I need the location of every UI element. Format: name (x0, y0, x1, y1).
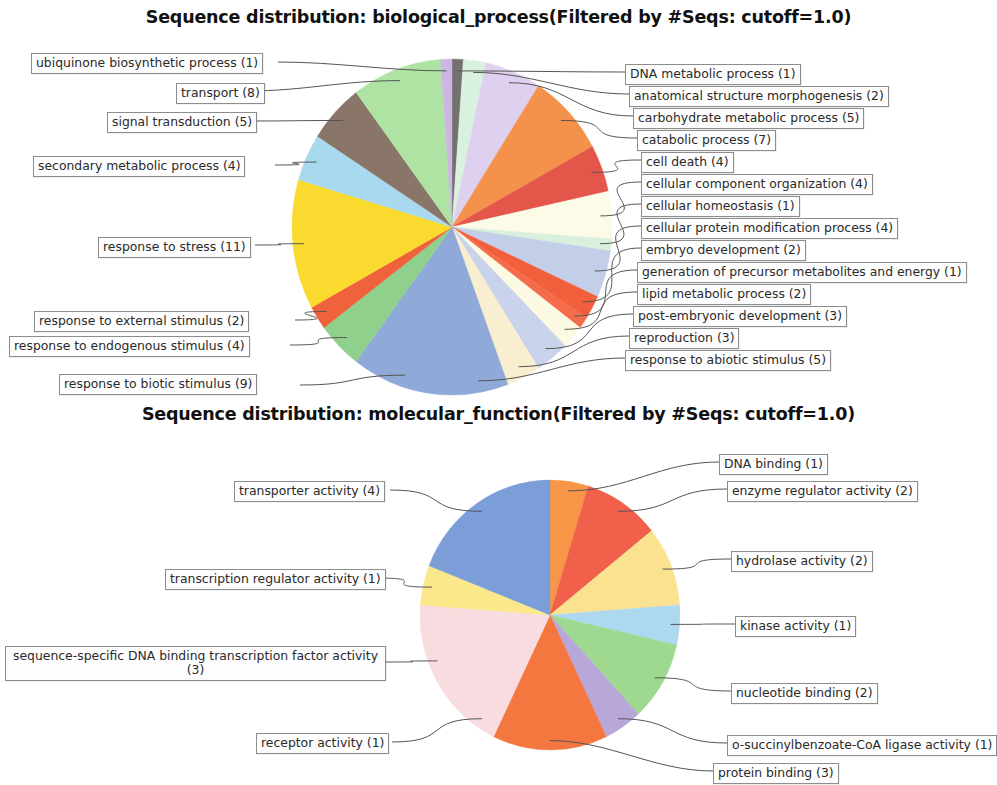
leader-line (655, 678, 731, 691)
bp-label-dna-metabolic-process[interactable]: DNA metabolic process (1) (625, 64, 801, 85)
mf-label-transcription-regulator-activity[interactable]: transcription regulator activity (1) (165, 569, 386, 590)
mf-label-dna-binding[interactable]: DNA binding (1) (719, 454, 828, 475)
leader-line (392, 719, 482, 742)
leader-line (244, 121, 343, 122)
pie-chart-biological-process: ubiquinone biosynthetic process (1) tran… (0, 55, 997, 400)
bp-label-carbohydrate-metabolic-process[interactable]: carbohydrate metabolic process (5) (633, 108, 864, 129)
mf-label-receptor-activity[interactable]: receptor activity (1) (256, 733, 389, 754)
mf-label-hydrolase-activity[interactable]: hydrolase activity (2) (731, 551, 873, 572)
bp-slice-group (292, 59, 612, 395)
mf-label-sequence-specific-dna-binding-transcription-factor-activity[interactable]: sequence-specific DNA binding transcript… (5, 646, 386, 681)
bp-label-anatomical-structure-morphogenesis[interactable]: anatomical structure morphogenesis (2) (629, 86, 889, 107)
leader-line (390, 490, 482, 511)
bp-label-post-embryonic-development[interactable]: post-embryonic development (3) (633, 306, 847, 327)
mf-label-protein-binding[interactable]: protein binding (3) (713, 763, 839, 784)
bp-label-embryo-development[interactable]: embryo development (2) (641, 240, 806, 261)
mf-slice-group (420, 480, 680, 750)
bp-label-transport[interactable]: transport (8) (176, 83, 265, 104)
bp-label-cellular-component-organization[interactable]: cellular component organization (4) (641, 174, 873, 195)
bp-label-lipid-metabolic-process[interactable]: lipid metabolic process (2) (637, 284, 811, 305)
bp-label-response-to-biotic-stimulus[interactable]: response to biotic stimulus (9) (59, 374, 257, 395)
bp-label-response-to-external-stimulus[interactable]: response to external stimulus (2) (34, 311, 249, 332)
page-title-molecular-function: Sequence distribution: molecular_functio… (0, 404, 997, 424)
mf-label-transporter-activity[interactable]: transporter activity (4) (234, 481, 385, 502)
bp-label-generation-of-precursor-metabolites-and-energy[interactable]: generation of precursor metabolites and … (637, 262, 967, 283)
page-title-biological-process: Sequence distribution: biological_proces… (0, 7, 997, 27)
mf-label-kinase-activity[interactable]: kinase activity (1) (735, 616, 856, 637)
leader-line (618, 489, 727, 511)
bp-label-secondary-metabolic-process[interactable]: secondary metabolic process (4) (33, 156, 245, 177)
bp-label-catabolic-process[interactable]: catabolic process (7) (637, 130, 776, 151)
leader-line (663, 559, 732, 569)
bp-label-cellular-protein-modification-process[interactable]: cellular protein modification process (4… (641, 218, 898, 239)
bp-label-ubiquinone-biosynthetic-process[interactable]: ubiquinone biosynthetic process (1) (31, 53, 263, 74)
bp-label-reproduction[interactable]: reproduction (3) (629, 328, 739, 349)
mf-label-enzyme-regulator-activity[interactable]: enzyme regulator activity (2) (727, 481, 918, 502)
bp-label-response-to-endogenous-stimulus[interactable]: response to endogenous stimulus (4) (9, 336, 250, 357)
bp-label-response-to-abiotic-stimulus[interactable]: response to abiotic stimulus (5) (625, 350, 831, 371)
pie-chart-molecular-function: transporter activity (4) transcription r… (0, 440, 997, 785)
mf-label-nucleotide-binding[interactable]: nucleotide binding (2) (731, 683, 878, 704)
mf-label-o-succinylbenzoate-coa-ligase-activity[interactable]: o-succinylbenzoate-CoA ligase activity (… (727, 735, 997, 756)
leader-line (618, 719, 727, 743)
bp-label-response-to-stress[interactable]: response to stress (11) (98, 237, 251, 258)
bp-label-signal-transduction[interactable]: signal transduction (5) (107, 112, 257, 133)
bp-label-cellular-homeostasis[interactable]: cellular homeostasis (1) (641, 196, 800, 217)
bp-label-cell-death[interactable]: cell death (4) (641, 152, 734, 173)
